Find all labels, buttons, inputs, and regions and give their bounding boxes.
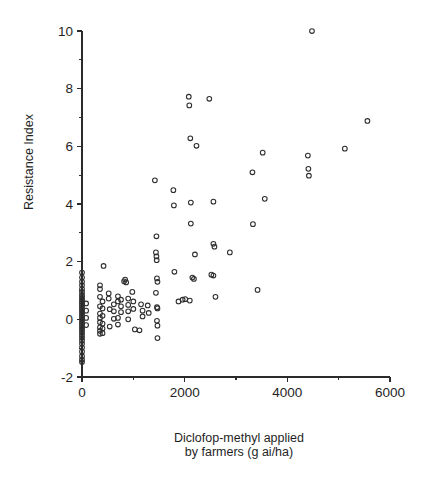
y-tick-label: 2: [65, 254, 73, 269]
data-point: [155, 318, 160, 323]
x-tick-label: 6000: [375, 385, 405, 400]
data-point: [251, 222, 256, 227]
x-tick-label: 2000: [170, 385, 200, 400]
tick-labels-group: -202468100200040006000: [58, 24, 405, 400]
data-point: [172, 269, 177, 274]
data-point: [146, 311, 151, 316]
data-point: [187, 298, 192, 303]
data-point: [211, 241, 216, 246]
data-point: [262, 196, 267, 201]
data-point: [250, 170, 255, 175]
axes-group: [82, 31, 390, 377]
data-point: [171, 188, 176, 193]
y-tick-label: 6: [65, 139, 73, 154]
x-axis-title-line1: Diclofop-methyl applied: [174, 431, 304, 445]
scatter-plot: -202468100200040006000 Diclofop-methyl a…: [0, 0, 424, 477]
x-tick-label: 4000: [272, 385, 302, 400]
data-point: [227, 250, 232, 255]
data-point: [365, 119, 370, 124]
x-axis-title-line2: by farmers (g ai/ha): [185, 445, 293, 459]
data-point: [154, 290, 159, 295]
data-point: [107, 324, 112, 329]
data-point: [187, 103, 192, 108]
data-point: [255, 288, 260, 293]
y-tick-label: 10: [58, 24, 73, 39]
y-tick-label: 8: [65, 81, 73, 96]
data-point: [188, 200, 193, 205]
data-point: [137, 328, 142, 333]
data-point: [119, 310, 124, 315]
data-point: [342, 146, 347, 151]
y-tick-label: 0: [65, 312, 73, 327]
data-point: [139, 302, 144, 307]
y-tick-label: 4: [65, 197, 73, 212]
data-point: [100, 299, 105, 304]
data-point: [101, 264, 106, 269]
data-point: [211, 199, 216, 204]
data-point: [260, 150, 265, 155]
data-point: [207, 96, 212, 101]
data-point: [188, 221, 193, 226]
data-point: [193, 252, 198, 257]
data-point: [98, 294, 103, 299]
data-point: [212, 244, 217, 249]
data-point: [186, 94, 191, 99]
data-point: [126, 309, 131, 314]
data-point: [126, 296, 131, 301]
data-point: [130, 290, 135, 295]
data-point: [111, 309, 116, 314]
data-point: [188, 136, 193, 141]
data-point: [131, 299, 136, 304]
data-point: [145, 303, 150, 308]
data-point: [155, 336, 160, 341]
ticks-group: [77, 31, 390, 382]
data-point: [306, 166, 311, 171]
chart-page: -202468100200040006000 Diclofop-methyl a…: [0, 0, 424, 477]
data-point: [140, 314, 145, 319]
axis-titles-group: Diclofop-methyl appliedby farmers (g ai/…: [22, 113, 304, 459]
data-point: [310, 29, 315, 34]
data-point: [172, 203, 177, 208]
data-point: [133, 327, 138, 332]
y-axis-title: Resistance Index: [22, 113, 36, 210]
data-point: [154, 234, 159, 239]
data-point: [106, 296, 111, 301]
data-points-group: [80, 29, 370, 365]
data-point: [140, 308, 145, 313]
data-point: [116, 322, 121, 327]
x-tick-label: 0: [78, 385, 86, 400]
data-point: [126, 303, 131, 308]
data-point: [106, 291, 111, 296]
data-point: [194, 143, 199, 148]
data-point: [119, 304, 124, 309]
y-tick-label: -2: [61, 370, 73, 385]
data-point: [307, 173, 312, 178]
data-point: [155, 323, 160, 328]
data-point: [131, 307, 136, 312]
data-point: [126, 317, 131, 322]
data-point: [213, 294, 218, 299]
data-point: [153, 178, 158, 183]
data-point: [306, 153, 311, 158]
